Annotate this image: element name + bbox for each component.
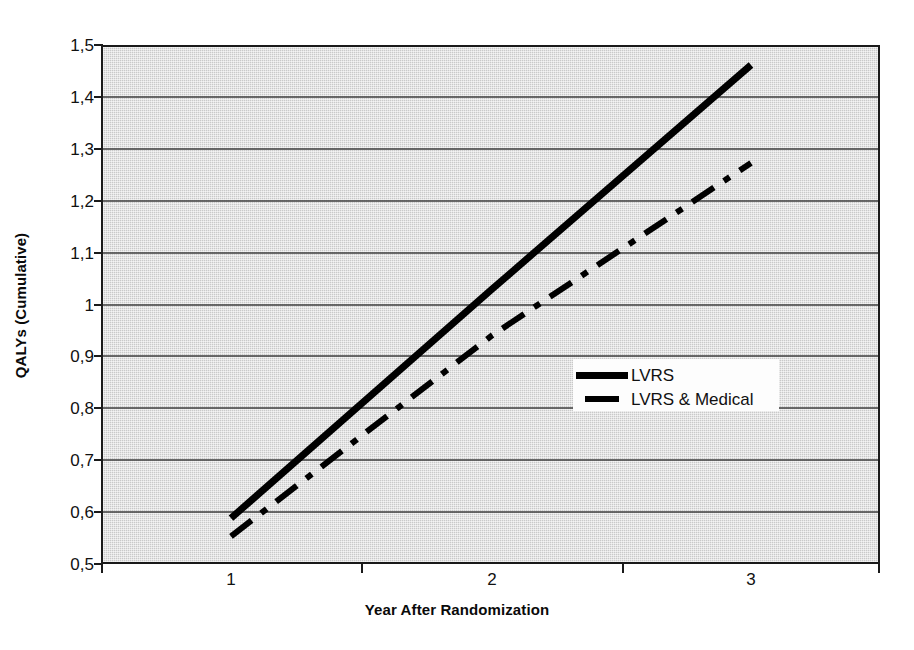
legend-label: LVRS & Medical: [631, 391, 754, 408]
x-tick-label: 1: [196, 571, 266, 588]
y-tick-label: 1,4: [34, 89, 94, 106]
x-tick-label: 2: [457, 571, 527, 588]
x-axis-title: Year After Randomization: [0, 601, 914, 618]
y-tick-label: 0,8: [34, 400, 94, 417]
y-tick-label: 0,5: [34, 556, 94, 573]
legend-item-lvrs: LVRS: [573, 363, 779, 387]
y-tick-label: 0,9: [34, 348, 94, 365]
chart-figure: QALYs (Cumulative) 1,5 1,4 1,3 1,2 1,1 1…: [0, 0, 914, 650]
plot-canvas: [103, 47, 878, 562]
plot-area: LVRS LVRS & Medical: [101, 45, 880, 564]
y-axis-tick-labels: 1,5 1,4 1,3 1,2 1,1 1 0,9 0,8 0,7 0,6 0,…: [30, 0, 94, 650]
y-tick-label: 1: [34, 297, 94, 314]
y-tick-label: 1,2: [34, 193, 94, 210]
dashed-line-swatch-icon: [573, 387, 631, 411]
y-tick-label: 0,7: [34, 452, 94, 469]
y-axis-title-text: QALYs (Cumulative): [13, 232, 30, 377]
series-line-lvrs-medical: [231, 163, 751, 536]
legend-item-lvrs-medical: LVRS & Medical: [573, 387, 779, 411]
chart-legend: LVRS LVRS & Medical: [573, 359, 779, 411]
x-tick-label: 3: [716, 571, 786, 588]
gridlines: [103, 97, 878, 512]
y-tick-label: 1,5: [34, 37, 94, 54]
solid-line-swatch-icon: [573, 363, 631, 387]
y-tick-label: 0,6: [34, 504, 94, 521]
y-tick-label: 1,1: [34, 245, 94, 262]
series-line-lvrs: [231, 65, 751, 518]
x-axis-tick-labels: 1 2 3: [0, 571, 914, 599]
y-tick-label: 1,3: [34, 141, 94, 158]
legend-label: LVRS: [631, 367, 674, 384]
